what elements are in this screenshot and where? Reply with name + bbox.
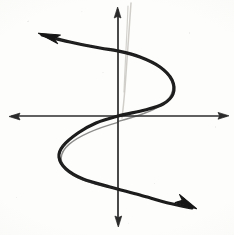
- cubic-curve-overstroke-lower: [61, 122, 118, 189]
- cubic-curve-overstroke-upper: [46, 36, 173, 121]
- x-axis-left-arrowhead: [9, 113, 20, 120]
- cubic-curve-path: [42, 35, 192, 208]
- stray-pencil-line: [122, 3, 131, 118]
- y-axis-top-arrowhead: [114, 7, 121, 18]
- graph-svg: [0, 0, 234, 235]
- x-axis-right-arrowhead: [218, 112, 229, 119]
- y-axis-bottom-arrowhead: [115, 216, 122, 227]
- figure-canvas: [0, 0, 234, 235]
